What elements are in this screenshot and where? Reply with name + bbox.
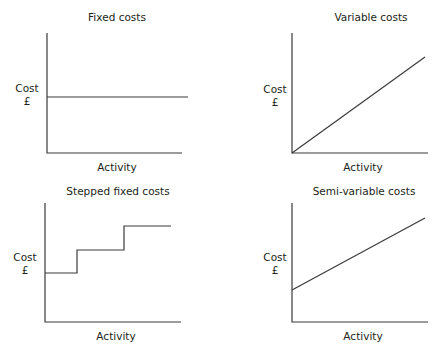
y-axis-unit: £ [24,95,31,107]
chart-variable-costs: Variable costs Cost £ Activity [263,11,428,173]
y-axis-unit: £ [272,264,279,276]
y-axis-label: Cost [263,83,286,95]
chart-title: Fixed costs [88,11,146,23]
y-axis-label: Cost [263,251,286,263]
axes [47,33,182,153]
semi-variable-cost-line [292,218,425,290]
variable-cost-line [292,57,425,153]
x-axis-label: Activity [96,330,135,342]
stepped-cost-line [45,226,171,273]
axes [292,203,428,322]
chart-title: Stepped fixed costs [66,185,169,197]
x-axis-label: Activity [343,330,382,342]
y-axis-label: Cost [15,82,38,94]
chart-fixed-costs: Fixed costs Cost £ Activity [15,11,188,173]
x-axis-label: Activity [97,161,136,173]
y-axis-label: Cost [13,251,36,263]
chart-semi-variable-costs: Semi-variable costs Cost £ Activity [263,185,428,342]
chart-title: Semi-variable costs [313,185,416,197]
y-axis-unit: £ [22,264,29,276]
chart-title: Variable costs [334,11,407,23]
cost-behaviour-charts: Fixed costs Cost £ Activity Variable cos… [0,0,438,355]
y-axis-unit: £ [272,96,279,108]
chart-stepped-fixed-costs: Stepped fixed costs Cost £ Activity [13,185,181,342]
x-axis-label: Activity [343,161,382,173]
axes [45,203,181,322]
axes [292,33,428,153]
